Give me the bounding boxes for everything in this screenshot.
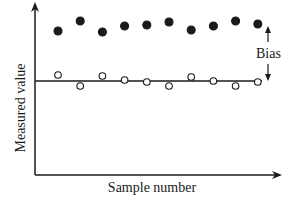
open-data-point: [210, 78, 217, 85]
open-data-point: [121, 77, 128, 84]
open-data-point: [188, 74, 195, 81]
filled-data-point: [254, 20, 262, 28]
filled-data-point: [54, 27, 62, 35]
filled-data-point: [165, 18, 173, 26]
filled-data-point: [232, 17, 240, 25]
filled-data-point: [143, 21, 151, 29]
open-data-point: [77, 83, 84, 90]
open-data-point: [166, 83, 173, 90]
bias-arrow-up-icon: [265, 26, 271, 33]
filled-data-point: [98, 28, 106, 36]
filled-data-point: [76, 17, 84, 25]
filled-data-point: [121, 22, 129, 30]
open-data-point: [254, 79, 261, 86]
y-axis-label: Measured value: [13, 63, 28, 152]
filled-points-series: [54, 17, 262, 36]
x-axis-label: Sample number: [108, 180, 197, 195]
chart: Bias Sample number Measured value: [0, 0, 297, 197]
bias-label: Bias: [256, 46, 281, 61]
open-data-point: [232, 83, 239, 90]
bias-arrow-down-icon: [265, 74, 271, 81]
filled-data-point: [187, 26, 195, 34]
open-data-point: [99, 73, 106, 80]
filled-data-point: [209, 22, 217, 30]
open-data-point: [144, 79, 151, 86]
bias-annotation: Bias: [256, 26, 281, 81]
open-data-point: [55, 72, 62, 79]
